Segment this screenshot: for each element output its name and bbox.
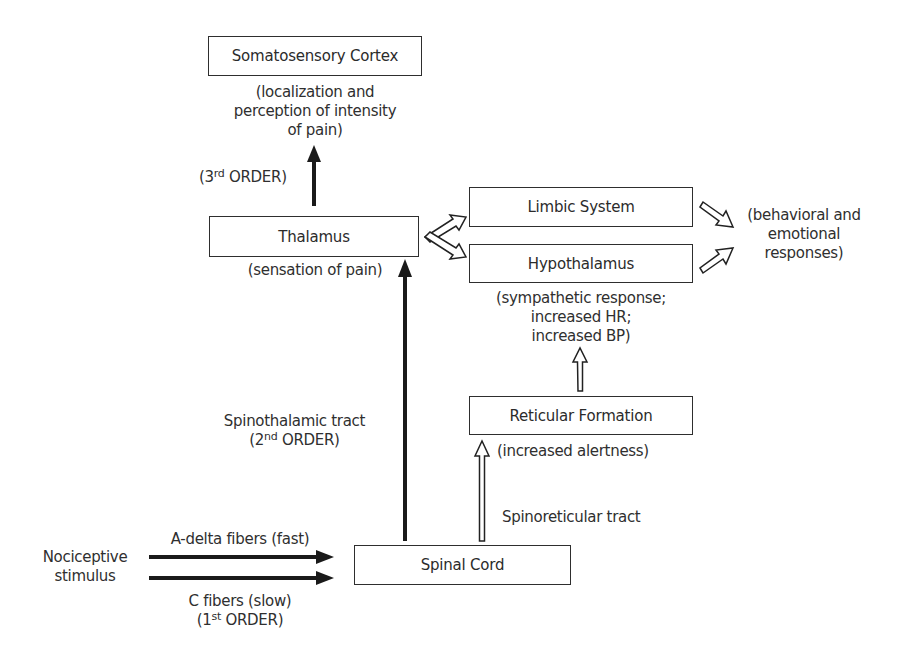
arrow-c-fibers (149, 571, 334, 585)
arrow-hypothalamus-to-behavioral (700, 248, 733, 273)
spinoreticular-tract-label: Spinoreticular tract (502, 508, 640, 527)
thalamus-note: (sensation of pain) (230, 261, 400, 280)
arrow-spinothalamic-tract (398, 259, 412, 541)
arrow-reticular-to-hypothalamus (573, 348, 587, 391)
hypothalamus-label: Hypothalamus (528, 255, 634, 273)
third-order-label: (3rd ORDER) (199, 168, 287, 187)
a-delta-fibers-label: A-delta fibers (fast) (150, 530, 330, 549)
arrow-limbic-to-behavioral (700, 202, 733, 227)
somatosensory-cortex-label: Somatosensory Cortex (232, 47, 398, 65)
arrow-thalamus-to-cortex (307, 145, 321, 206)
spinal-cord-box: Spinal Cord (354, 545, 571, 585)
reticular-formation-label: Reticular Formation (510, 407, 653, 425)
limbic-system-label: Limbic System (527, 198, 634, 216)
somatosensory-cortex-note: (localization and perception of intensit… (215, 83, 415, 140)
thalamus-box: Thalamus (209, 216, 419, 257)
hypothalamus-box: Hypothalamus (469, 244, 693, 283)
arrow-spinoreticular-tract (475, 441, 489, 541)
reticular-formation-note: (increased alertness) (497, 442, 649, 461)
arrow-thalamus-to-limbic-hypothalamus (425, 215, 466, 259)
behavioral-responses-label: (behavioral and emotional responses) (734, 206, 874, 263)
thalamus-label: Thalamus (278, 228, 350, 246)
arrow-a-delta-fibers (149, 550, 334, 564)
spinal-cord-label: Spinal Cord (421, 556, 505, 574)
hypothalamus-note: (sympathetic response; increased HR; inc… (478, 289, 684, 346)
c-fibers-label: C fibers (slow) (1st ORDER) (160, 592, 320, 630)
limbic-system-box: Limbic System (469, 187, 693, 227)
nociceptive-stimulus-label: Nociceptive stimulus (30, 548, 140, 586)
somatosensory-cortex-box: Somatosensory Cortex (208, 36, 422, 76)
spinothalamic-tract-label: Spinothalamic tract (2nd ORDER) (212, 412, 377, 450)
reticular-formation-box: Reticular Formation (469, 396, 693, 435)
